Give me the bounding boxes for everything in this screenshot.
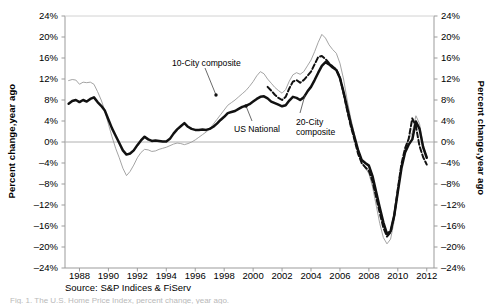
leader-us-national (246, 106, 252, 121)
leader-us-national-endpoint (244, 104, 247, 107)
home-price-index-chart: Percent change,year ago Percent change,y… (0, 0, 492, 305)
plot-canvas (0, 0, 492, 305)
series-line-10-city-composite (69, 34, 427, 243)
series-line-20-city-composite (268, 56, 427, 237)
caption-fragment: Fig. 1. The U.S. Home Price Index, perce… (10, 297, 310, 304)
leader-10-city-endpoint (214, 93, 217, 96)
source-note: Source: S&P Indices & FiServ (65, 282, 191, 293)
leader-10-city (205, 68, 216, 95)
